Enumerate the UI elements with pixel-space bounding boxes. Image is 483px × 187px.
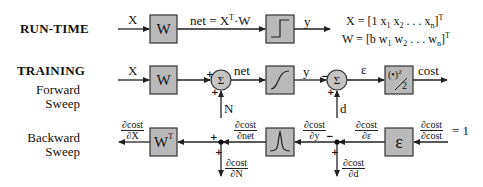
dX-den: ∂X [125, 131, 139, 141]
square-base: (•) [388, 69, 398, 80]
fw-output-y-label: y [303, 65, 310, 78]
fw-input-x-label: X [128, 64, 137, 77]
eqw-b: w [392, 32, 404, 46]
bw-junction2-dot [334, 139, 339, 144]
bw-seed-value: = 1 [452, 124, 469, 137]
fw-weight-block-label: W [150, 66, 177, 94]
eqw-t: T [445, 31, 450, 40]
eqx-c: . . . x [403, 14, 430, 28]
dN-den: ∂N [229, 169, 243, 179]
eqw-c: . . . w [407, 32, 437, 46]
eqx-t: T [438, 13, 443, 22]
wt-sup: T [168, 132, 173, 141]
bw-dcost-dy-label: ∂cost ∂y [303, 120, 326, 141]
dnet-den: ∂net [236, 131, 255, 141]
bw-j1-plus-bottom: + [215, 148, 223, 157]
forward-line1: Forward [0, 83, 80, 97]
bw-j1-plus-top: + [210, 133, 218, 142]
rt-weight-block-label: W [150, 15, 177, 43]
section-backward-sweep-label: Backward Sweep [0, 131, 80, 159]
net-eq-lhs: net = X [190, 13, 229, 28]
dy-den: ∂y [309, 131, 321, 141]
eq-x-vector: X = [1 x1 x2 . . . xn]T [346, 14, 443, 30]
eqw-a: W = [b w [342, 32, 388, 46]
bw-junction1-dot [218, 139, 223, 144]
backward-line1: Backward [0, 131, 80, 145]
fw-cost-label: cost [418, 64, 439, 77]
fw-cost-block-num: (•)2 [388, 69, 402, 80]
fw-cost-block-den: 2 [402, 81, 407, 91]
eqx-a: X = [1 x [346, 14, 386, 28]
bw-dcost-dX-label: ∂cost ∂X [121, 120, 144, 141]
fw-sum2-symbol: Σ [327, 70, 347, 90]
bw-dcost-dd-label: ∂cost ∂d [342, 158, 365, 179]
wt-base: W [154, 134, 168, 151]
section-runtime-label: RUN-TIME [20, 22, 89, 35]
net-eq-rhs: ·W [234, 13, 251, 28]
fw-noise-n-label: N [224, 102, 233, 115]
fw-error-label: ε [361, 63, 366, 76]
dcost-den: ∂cost [420, 131, 443, 141]
bw-dcost-de-label: ∂cost ∂ε [355, 120, 378, 141]
square-exp: 2 [398, 68, 402, 76]
bw-j2-minus: − [326, 132, 334, 141]
forward-line2: Sweep [0, 97, 80, 111]
dd-den: ∂d [348, 169, 360, 179]
bw-dcost-dN-label: ∂cost ∂N [225, 158, 248, 179]
bw-dcost-dnet-label: ∂cost ∂net [234, 120, 257, 141]
section-forward-sweep-label: Forward Sweep [0, 83, 80, 111]
fw-desired-d-label: d [340, 102, 347, 115]
rt-input-x-label: X [128, 13, 137, 26]
section-training-label: TRAINING [17, 64, 85, 77]
bw-dcost-dcost-label: ∂cost ∂cost [420, 120, 443, 141]
bw-weight-transpose-label: WT [150, 128, 177, 156]
de-den: ∂ε [361, 131, 372, 141]
fw-sum1-symbol: Σ [211, 70, 231, 90]
eq-w-vector: W = [b w1 w2 . . . wn]T [342, 32, 450, 48]
rt-output-y-label: y [304, 15, 311, 28]
bw-j2-plus: + [331, 148, 339, 157]
fw-sigmoid-block [266, 66, 294, 94]
bw-error-block-label: ε [385, 128, 413, 156]
rt-net-equation: net = XT·W [190, 14, 251, 27]
backward-line2: Sweep [0, 145, 80, 159]
fw-net-label: net [234, 64, 250, 77]
